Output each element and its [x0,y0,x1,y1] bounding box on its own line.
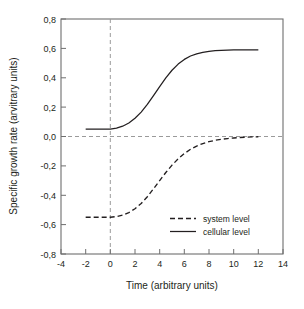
y-tick-label: -0,6 [40,220,56,230]
series-system-level [86,137,259,217]
x-tick-label: 0 [108,259,113,269]
chart-figure: 0,8 0,6 0,4 0,2 0,0 -0,2 -0,4 -0,6 -0,8 … [0,0,304,309]
x-tick-label: 4 [157,259,162,269]
y-tick-label: -0,8 [40,250,56,260]
legend-label-system-level: system level [203,214,250,224]
x-tick-label: 14 [278,259,288,269]
x-axis-tick-labels: -4 -2 0 2 4 6 8 10 12 14 [57,259,288,269]
growth-rate-line-chart: 0,8 0,6 0,4 0,2 0,0 -0,2 -0,4 -0,6 -0,8 … [0,0,304,309]
x-tick-label: -4 [57,259,65,269]
x-tick-label: -2 [82,259,90,269]
x-axis-title: Time (arbitrary units) [126,280,218,291]
series-cellular-level [86,50,259,129]
y-tick-label: 0,6 [43,44,56,54]
data-series-group [86,50,259,217]
x-tick-label: 10 [229,259,239,269]
x-tick-label: 8 [206,259,211,269]
x-tick-label: 6 [182,259,187,269]
x-axis-ticks [61,249,283,254]
y-tick-label: 0,2 [43,103,56,113]
y-axis-tick-labels: 0,8 0,6 0,4 0,2 0,0 -0,2 -0,4 -0,6 -0,8 [40,15,56,260]
x-tick-label: 2 [132,259,137,269]
y-tick-label: 0,8 [43,15,56,25]
y-tick-label: 0,0 [43,132,56,142]
legend-label-cellular-level: cellular level [203,227,250,237]
y-axis-ticks [61,19,66,254]
chart-legend: system level cellular level [170,214,250,237]
y-tick-label: -0,2 [40,161,56,171]
y-tick-label: -0,4 [40,191,56,201]
x-tick-label: 12 [253,259,263,269]
y-axis-title: Specific growth rate (arvitrary units) [8,57,19,214]
y-tick-label: 0,4 [43,73,56,83]
